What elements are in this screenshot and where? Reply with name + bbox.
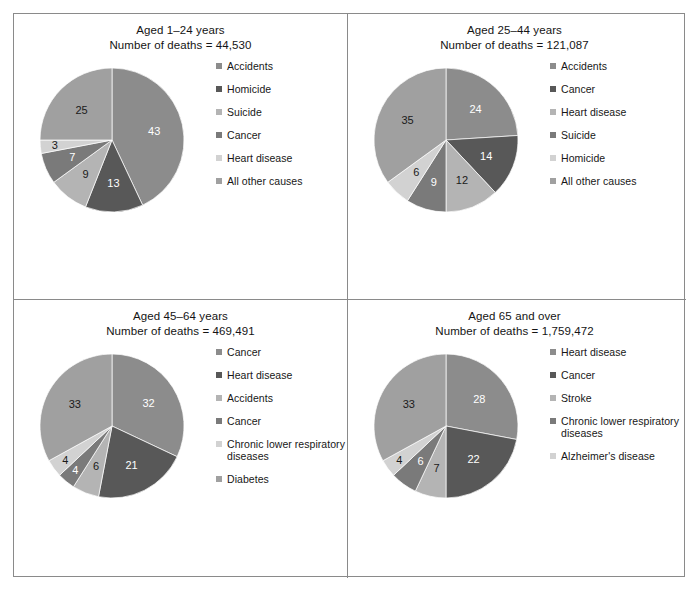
panel-title-line2: Number of deaths = 469,491 [14,324,347,339]
legend-swatch-icon [550,155,556,161]
legend-swatch-icon [216,86,222,92]
legend-item-label: Cancer [561,369,595,381]
pie-slice-value: 13 [107,177,119,189]
legend-swatch-icon [550,349,556,355]
pie-slice-value: 22 [467,453,479,465]
pie-slice-value: 6 [93,460,99,472]
legend-swatch-icon [216,395,222,401]
panel-title-line1: Aged 65 and over [468,310,560,322]
legend-item-label: Homicide [227,83,271,95]
legend-item[interactable]: Chronic lower respiratory diseases [216,438,347,462]
legend-item-label: Heart disease [561,106,626,118]
legend-item-label: Homicide [561,152,605,164]
legend-2: CancerHeart diseaseAccidentsCancerChroni… [216,346,347,485]
legend-item[interactable]: Heart disease [216,369,347,381]
legend-item[interactable]: Cancer [216,415,347,427]
legend-swatch-icon [216,155,222,161]
legend-swatch-icon [550,109,556,115]
legend-swatch-icon [550,86,556,92]
legend-item[interactable]: All other causes [550,175,681,187]
legend-swatch-icon [216,63,222,69]
legend-swatch-icon [550,453,556,459]
legend-item[interactable]: All other causes [216,175,347,187]
pie-slice-value: 43 [148,125,160,137]
legend-swatch-icon [216,441,222,447]
legend-item-label: Accidents [227,392,273,404]
legend-item[interactable]: Alzheimer's disease [550,450,681,462]
pie-slice-value: 24 [469,103,481,115]
pie-svg: 322164433 [32,346,192,506]
pie-slice-value: 6 [413,166,419,178]
legend-item-label: Heart disease [561,346,626,358]
legend-swatch-icon [216,132,222,138]
pie-slice[interactable] [446,68,518,140]
legend-0: AccidentsHomicideSuicideCancerHeart dise… [216,60,347,187]
panel-title-2: Aged 45–64 years Number of deaths = 469,… [14,309,347,339]
pie-svg: 2414129635 [366,60,526,220]
panel-title-3: Aged 65 and over Number of deaths = 1,75… [348,309,681,339]
legend-item-label: Cancer [227,129,261,141]
legend-swatch-icon [550,418,556,424]
panel-title-line2: Number of deaths = 1,759,472 [348,324,681,339]
legend-item[interactable]: Cancer [550,369,681,381]
legend-item[interactable]: Diabetes [216,473,347,485]
pie-slice-value: 12 [456,174,468,186]
legend-item-label: Chronic lower respiratory diseases [227,438,347,462]
pie-slice-value: 3 [52,139,58,151]
legend-swatch-icon [550,372,556,378]
panel-title-line2: Number of deaths = 44,530 [14,38,347,53]
figure-frame: Aged 1–24 years Number of deaths = 44,53… [13,13,685,577]
pie-svg: 431397325 [32,60,192,220]
pie-slice-value: 7 [434,462,440,474]
pie-slice-value: 25 [75,104,87,116]
legend-item-label: Diabetes [227,473,269,485]
legend-item[interactable]: Suicide [550,129,681,141]
legend-swatch-icon [216,349,222,355]
legend-item[interactable]: Accidents [216,60,347,72]
legend-item[interactable]: Cancer [216,129,347,141]
pie-slice-value: 4 [72,464,78,476]
legend-item[interactable]: Chronic lower respiratory diseases [550,415,681,439]
pie-panel-0: Aged 1–24 years Number of deaths = 44,53… [14,14,347,299]
pie-chart-2: 322164433 [32,346,192,506]
legend-item-label: All other causes [227,175,303,187]
legend-item-label: Heart disease [227,152,292,164]
legend-item-label: Heart disease [227,369,292,381]
pie-panel-1: Aged 25–44 years Number of deaths = 121,… [348,14,681,299]
legend-item[interactable]: Cancer [216,346,347,358]
legend-item[interactable]: Homicide [216,83,347,95]
pie-chart-1: 2414129635 [366,60,526,220]
legend-item[interactable]: Homicide [550,152,681,164]
legend-item-label: Suicide [227,106,262,118]
legend-swatch-icon [550,395,556,401]
legend-item[interactable]: Heart disease [216,152,347,164]
legend-item-label: All other causes [561,175,637,187]
pie-panel-2: Aged 45–64 years Number of deaths = 469,… [14,300,347,585]
legend-swatch-icon [216,178,222,184]
panel-title-line2: Number of deaths = 121,087 [348,38,681,53]
pie-slice-value: 9 [82,168,88,180]
legend-item[interactable]: Accidents [550,60,681,72]
legend-swatch-icon [216,476,222,482]
legend-item[interactable]: Stroke [550,392,681,404]
legend-item[interactable]: Suicide [216,106,347,118]
legend-swatch-icon [550,132,556,138]
legend-swatch-icon [216,109,222,115]
legend-item[interactable]: Heart disease [550,346,681,358]
pie-slice-value: 32 [142,397,154,409]
pie-chart-3: 282276433 [366,346,526,506]
panel-title-line1: Aged 25–44 years [467,24,562,36]
legend-1: AccidentsCancerHeart diseaseSuicideHomic… [550,60,681,187]
pie-slice-value: 21 [125,459,137,471]
pie-slice-value: 33 [69,398,81,410]
pie-chart-0: 431397325 [32,60,192,220]
legend-item[interactable]: Cancer [550,83,681,95]
pie-slice-value: 14 [480,150,492,162]
pie-panel-3: Aged 65 and over Number of deaths = 1,75… [348,300,681,585]
legend-item[interactable]: Heart disease [550,106,681,118]
legend-item-label: Suicide [561,129,596,141]
legend-swatch-icon [216,372,222,378]
legend-item-label: Accidents [227,60,273,72]
legend-item[interactable]: Accidents [216,392,347,404]
legend-item-label: Accidents [561,60,607,72]
